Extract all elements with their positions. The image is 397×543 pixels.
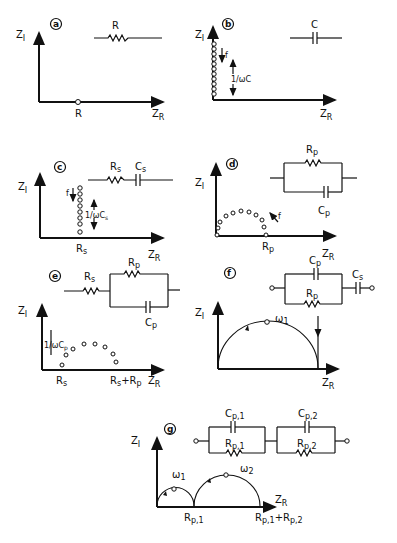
terminal-right bbox=[370, 286, 374, 290]
resistor-icon bbox=[88, 177, 136, 183]
circuit-label-rs: Rs bbox=[110, 161, 121, 174]
x-axis-label: ZR bbox=[148, 249, 161, 263]
panel-label: f bbox=[227, 268, 231, 278]
terminal-right bbox=[345, 439, 349, 443]
panel-e: ZI ZR e 1/ωCp Rs Rs+Rp Rs Rp Cp bbox=[18, 257, 180, 389]
panel-a: ZI ZR a R R bbox=[16, 19, 165, 123]
circuit-label-rp2: Rp,2 bbox=[297, 438, 317, 451]
y-axis-label: ZI bbox=[131, 435, 140, 449]
plot-label-rs-plus-rp: Rs+Rp bbox=[110, 375, 142, 388]
x-axis-label: ZR bbox=[152, 108, 165, 122]
panel-f: ZI ZR f ω1 Cp Rp Cs bbox=[195, 255, 374, 391]
plot-label-reactance: 1/ωCs bbox=[85, 211, 108, 221]
circuit-label-cp2: Cp,2 bbox=[298, 408, 318, 421]
x-axis-label: ZR bbox=[320, 108, 333, 122]
y-axis-label: ZI bbox=[195, 307, 204, 321]
panel-label: g bbox=[167, 424, 173, 434]
peak-point-1 bbox=[172, 487, 176, 491]
plot-label-f: f bbox=[225, 51, 228, 60]
panel-label: c bbox=[57, 162, 62, 172]
terminal-left bbox=[270, 286, 274, 290]
circuit-label-cs: Cs bbox=[135, 161, 146, 174]
circuit-label-cs: Cs bbox=[352, 269, 363, 282]
panel-label: e bbox=[52, 271, 58, 281]
data-points bbox=[215, 209, 268, 237]
resistor-icon bbox=[110, 271, 168, 277]
plot-label-f: f bbox=[278, 212, 281, 221]
plot-label-reactance: 1/ωCp bbox=[44, 341, 68, 352]
panel-label: a bbox=[53, 19, 59, 29]
panel-label: d bbox=[229, 159, 235, 169]
panel-b: ZI ZR b f 1/ωC C bbox=[195, 19, 342, 123]
circuit-label-cp: Cp bbox=[145, 317, 157, 330]
circuit-label-cp: Cp bbox=[318, 205, 330, 218]
y-axis-label: ZI bbox=[195, 177, 204, 191]
plot-label-omega2: ω2 bbox=[240, 463, 253, 476]
data-points bbox=[78, 186, 82, 234]
panel-g: ZI ZR g ω1 ω2 Rp,1 Rp,1+Rp,2 Cp,1 Rp,1 bbox=[131, 408, 349, 525]
semicircle-curve bbox=[218, 321, 318, 368]
panel-d: ZI ZR d f Rp Rp Cp bbox=[195, 144, 357, 262]
plot-label-rp: Rp bbox=[262, 241, 274, 254]
circuit-label-cp: Cp bbox=[309, 255, 321, 268]
data-point bbox=[76, 100, 81, 105]
plot-label-f: f bbox=[66, 189, 69, 198]
plot-label-rp1: Rp,1 bbox=[184, 512, 204, 525]
plot-label-rp1-plus-rp2: Rp,1+Rp,2 bbox=[255, 512, 303, 525]
circuit-label-rp: Rp bbox=[128, 257, 140, 270]
frequency-arrow-icon bbox=[270, 213, 278, 222]
plot-label-rs: Rs bbox=[56, 375, 67, 388]
resistor-icon bbox=[64, 288, 110, 294]
plot-label-omega1: ω1 bbox=[275, 313, 288, 326]
plot-label-omega1: ω1 bbox=[172, 469, 185, 482]
x-axis-label: ZR bbox=[322, 377, 335, 391]
semicircle-2 bbox=[194, 475, 260, 506]
plot-label-r: R bbox=[75, 108, 82, 119]
y-axis-label: ZI bbox=[16, 29, 25, 43]
circuit-label-r: R bbox=[112, 20, 119, 31]
x-axis-label: ZR bbox=[322, 248, 335, 262]
y-axis-label: ZI bbox=[18, 305, 27, 319]
panel-c: ZI ZR c f 1/ωCs Rs Rs Cs bbox=[18, 161, 173, 263]
data-points bbox=[60, 342, 118, 367]
peak-point bbox=[265, 320, 270, 325]
resistor-icon bbox=[285, 301, 342, 307]
resistor-icon bbox=[284, 160, 342, 166]
data-points bbox=[212, 42, 216, 96]
x-axis-label: ZR bbox=[148, 375, 161, 389]
circuit-label-cp1: Cp,1 bbox=[225, 408, 245, 421]
x-axis-label: ZR bbox=[275, 494, 288, 508]
peak-point-2 bbox=[224, 473, 228, 477]
circuit-label-rp: Rp bbox=[306, 144, 318, 157]
circuit-label-rs: Rs bbox=[84, 271, 95, 284]
circuit-label-rp: Rp bbox=[306, 288, 318, 301]
y-axis-label: ZI bbox=[18, 181, 27, 195]
resistor-icon bbox=[94, 35, 162, 41]
y-axis-label: ZI bbox=[195, 29, 204, 43]
terminal-left bbox=[194, 439, 198, 443]
plot-label-rs: Rs bbox=[76, 243, 87, 256]
impedance-diagram: ZI ZR a R R ZI ZR b f 1/ωC C bbox=[0, 0, 397, 543]
circuit-label-c: C bbox=[311, 19, 318, 30]
panel-label: b bbox=[225, 19, 232, 29]
plot-label-reactance: 1/ωC bbox=[231, 75, 251, 84]
